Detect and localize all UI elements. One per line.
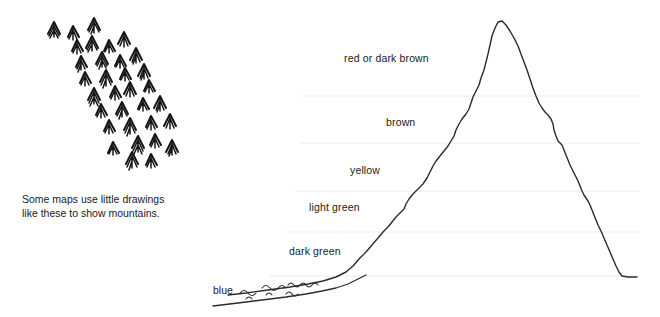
- band-label-brown: brown: [386, 116, 415, 128]
- shoreline: [213, 275, 366, 306]
- band-label-red-or-dark-brown: red or dark brown: [344, 52, 429, 64]
- wave-icon: [286, 292, 298, 296]
- water-wave-symbols: [240, 283, 318, 299]
- wave-icon: [266, 293, 272, 295]
- band-label-blue: blue: [213, 284, 233, 296]
- wave-icon: [246, 297, 252, 299]
- figure-page: Some maps use little drawings like these…: [0, 0, 660, 317]
- elevation-profile-chart: [0, 0, 660, 317]
- band-label-light-green: light green: [309, 201, 360, 213]
- band-label-yellow: yellow: [350, 164, 380, 176]
- band-label-dark-green: dark green: [289, 245, 341, 257]
